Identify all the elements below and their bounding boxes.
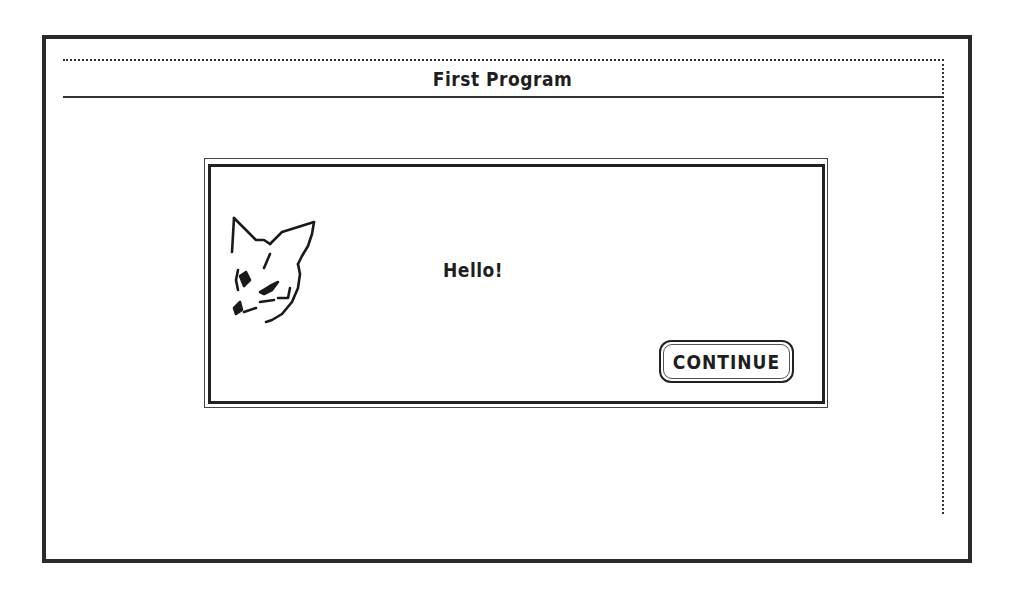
title-bar-divider [63,96,942,98]
continue-button[interactable]: CONTINUE [659,340,794,383]
fox-icon [226,210,321,330]
dialog-message: Hello! [443,259,503,281]
window-right-edge [942,59,944,514]
window-title: First Program [63,68,942,90]
window-title-bar[interactable]: First Program [63,61,942,96]
continue-button-label: CONTINUE [673,351,780,373]
